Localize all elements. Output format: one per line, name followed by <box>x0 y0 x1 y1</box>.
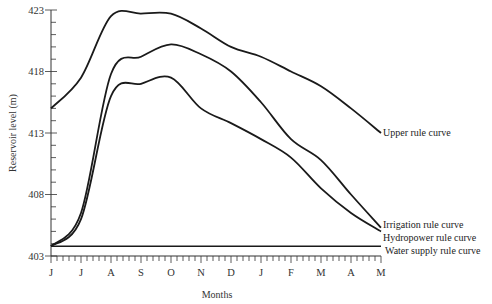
x-tick-label-may: M <box>376 267 386 278</box>
curves <box>51 11 381 246</box>
y-tick-label-423: 423 <box>28 5 44 16</box>
x-tick-label-jul: J <box>79 267 83 278</box>
irrigation-rule-curve-label: Irrigation rule curve <box>383 219 464 230</box>
hydropower-rule-curve <box>51 76 381 246</box>
x-tick-label-feb: F <box>288 267 294 278</box>
x-tick-label-oct: O <box>167 267 175 278</box>
y-tick-label-408: 408 <box>28 189 44 200</box>
x-tick-label-jan: J <box>259 267 263 278</box>
y-axis-labels: 423 418 413 408 403 <box>28 5 44 262</box>
x-tick-label-aug: A <box>107 267 115 278</box>
y-tick-label-403: 403 <box>28 251 44 262</box>
x-axis-title: Months <box>202 289 233 300</box>
hydropower-rule-curve-label: Hydropower rule curve <box>383 232 477 243</box>
x-tick-label-nov: N <box>197 267 205 278</box>
x-tick-label-jun: J <box>49 267 53 278</box>
x-axis-ticks <box>51 256 381 263</box>
upper-rule-curve-label: Upper rule curve <box>383 127 451 138</box>
y-axis-ticks <box>45 10 57 256</box>
y-axis-title: Reservoir level (m) <box>7 94 19 172</box>
x-tick-label-dec: D <box>227 267 235 278</box>
y-tick-label-418: 418 <box>28 66 44 77</box>
water-supply-rule-curve-label: Water supply rule curve <box>385 245 481 256</box>
x-axis-labels: J J A S O N D J F M A M <box>49 267 386 278</box>
y-tick-label-413: 413 <box>28 128 44 139</box>
x-tick-label-sep: S <box>138 267 144 278</box>
irrigation-rule-curve <box>51 44 381 246</box>
x-tick-label-mar: M <box>316 267 326 278</box>
rule-curve-chart: 423 418 413 408 403 Reservoir level (m) … <box>0 0 492 304</box>
x-tick-label-apr: A <box>347 267 355 278</box>
